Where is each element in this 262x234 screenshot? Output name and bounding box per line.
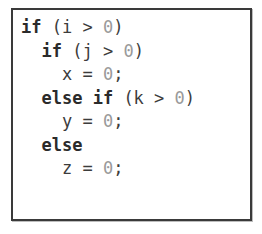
code-token-plain: ) [134, 41, 144, 61]
code-token-indent [21, 111, 62, 131]
code-line: y = 0; [21, 110, 248, 134]
code-token-plain: ) [113, 17, 123, 37]
code-token-kw: else [41, 135, 82, 155]
code-figure: if (i > 0) if (j > 0) x = 0; else if (k … [0, 0, 262, 234]
code-token-plain: ; [113, 158, 123, 178]
code-line: if (j > 0) [21, 40, 248, 64]
code-token-plain: x = [62, 64, 103, 84]
code-token-num: 0 [103, 158, 113, 178]
code-token-indent [21, 158, 62, 178]
code-token-indent [21, 41, 41, 61]
code-token-kw: if [41, 41, 61, 61]
code-token-plain: ; [113, 111, 123, 131]
code-line: else [21, 134, 248, 158]
code-token-plain: y = [62, 111, 103, 131]
code-token-indent [21, 135, 41, 155]
code-line: z = 0; [21, 157, 248, 181]
code-token-plain: ; [113, 64, 123, 84]
code-line: if (i > 0) [21, 16, 248, 40]
code-line: x = 0; [21, 63, 248, 87]
code-token-plain: (k > [113, 88, 174, 108]
code-token-plain: ) [185, 88, 195, 108]
code-token-num: 0 [103, 17, 113, 37]
code-token-plain: z = [62, 158, 103, 178]
code-token-indent [21, 88, 41, 108]
code-token-kw: else if [41, 88, 113, 108]
code-line: else if (k > 0) [21, 87, 248, 111]
code-token-num: 0 [103, 111, 113, 131]
code-token-plain: (j > [62, 41, 123, 61]
code-token-plain: (i > [41, 17, 102, 37]
code-block-border: if (i > 0) if (j > 0) x = 0; else if (k … [11, 8, 252, 221]
code-token-indent [21, 64, 62, 84]
code-token-num: 0 [175, 88, 185, 108]
code-token-num: 0 [123, 41, 133, 61]
code-token-num: 0 [103, 64, 113, 84]
code-token-kw: if [21, 17, 41, 37]
code-listing: if (i > 0) if (j > 0) x = 0; else if (k … [21, 16, 248, 181]
